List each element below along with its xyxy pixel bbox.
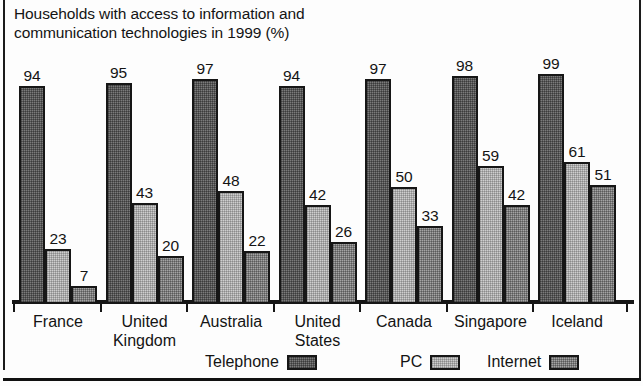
- bar-telephone[interactable]: 97: [365, 79, 391, 302]
- bar-telephone[interactable]: 94: [279, 86, 305, 302]
- bar-value-label: 97: [369, 60, 386, 78]
- bar-value-label: 22: [248, 232, 265, 250]
- legend-item-internet[interactable]: Internet: [487, 352, 579, 372]
- bar-group-bars: 944226: [279, 52, 357, 302]
- legend-swatch-internet: [549, 355, 579, 370]
- bar-value-label: 94: [283, 67, 300, 85]
- bar-internet[interactable]: 22: [244, 251, 270, 302]
- bar-value-label: 94: [23, 67, 40, 85]
- bar-value-label: 26: [335, 223, 352, 241]
- bar-group-bars: 954320: [106, 52, 184, 302]
- chart-legend: TelephonePCInternet: [0, 352, 643, 378]
- bar-group-bars: 975033: [365, 52, 443, 302]
- bar-pc[interactable]: 59: [478, 166, 504, 302]
- legend-label: Internet: [487, 352, 541, 372]
- x-axis-label-line: Iceland: [522, 312, 632, 331]
- bar-internet[interactable]: 26: [331, 242, 357, 302]
- bar-pc[interactable]: 48: [218, 191, 244, 302]
- x-axis-tick: [626, 302, 628, 312]
- bar-telephone[interactable]: 98: [452, 76, 478, 302]
- bar-value-label: 7: [80, 267, 89, 285]
- bar-value-label: 42: [508, 186, 525, 204]
- chart-title-line-2: communication technologies in 1999 (%): [14, 23, 444, 42]
- bar-group-bars: 996151: [538, 52, 616, 302]
- bar-internet[interactable]: 51: [590, 185, 616, 302]
- chart-figure: Households with access to information an…: [0, 0, 643, 386]
- bar-value-label: 98: [456, 57, 473, 75]
- bar-internet[interactable]: 20: [158, 256, 184, 302]
- chart-title-line-1: Households with access to information an…: [14, 4, 444, 23]
- bar-value-label: 61: [568, 143, 585, 161]
- legend-label: Telephone: [205, 352, 279, 372]
- x-axis-tick: [446, 302, 448, 312]
- x-axis-label: Iceland: [522, 312, 632, 331]
- bar-telephone[interactable]: 99: [538, 74, 564, 302]
- bar-group-bars: 985942: [452, 52, 530, 302]
- x-axis-label-line: Kingdom: [90, 331, 200, 350]
- x-axis-tick: [186, 302, 188, 312]
- bar-value-label: 51: [594, 166, 611, 184]
- bar-group-bars: 94237: [19, 52, 97, 302]
- legend-swatch-telephone: [287, 355, 317, 370]
- bar-value-label: 42: [309, 186, 326, 204]
- x-axis-tick: [273, 302, 275, 312]
- x-axis-tick: [359, 302, 361, 312]
- bar-telephone[interactable]: 94: [19, 86, 45, 302]
- bar-telephone[interactable]: 97: [192, 79, 218, 302]
- bar-value-label: 33: [421, 207, 438, 225]
- bar-value-label: 59: [482, 147, 499, 165]
- frame-right-border: [639, 0, 641, 378]
- legend-item-telephone[interactable]: Telephone: [205, 352, 317, 372]
- bar-pc[interactable]: 61: [564, 162, 590, 302]
- bar-value-label: 95: [110, 64, 127, 82]
- chart-title: Households with access to information an…: [14, 4, 444, 42]
- bar-telephone[interactable]: 95: [106, 83, 132, 302]
- bar-group-bars: 974822: [192, 52, 270, 302]
- legend-label: PC: [400, 352, 422, 372]
- x-axis-tick: [100, 302, 102, 312]
- bar-value-label: 23: [49, 230, 66, 248]
- bar-value-label: 43: [136, 184, 153, 202]
- x-axis-tick: [532, 302, 534, 312]
- legend-swatch-pc: [430, 355, 460, 370]
- bar-pc[interactable]: 42: [305, 205, 331, 302]
- bar-pc[interactable]: 50: [391, 187, 417, 302]
- x-axis-tick: [13, 302, 15, 312]
- bar-internet[interactable]: 33: [417, 226, 443, 302]
- bar-pc[interactable]: 43: [132, 203, 158, 302]
- bar-value-label: 20: [162, 237, 179, 255]
- bar-pc[interactable]: 23: [45, 249, 71, 302]
- frame-bottom-border: [3, 378, 641, 381]
- bar-internet[interactable]: 42: [504, 205, 530, 302]
- bar-value-label: 99: [542, 55, 559, 73]
- bar-value-label: 97: [196, 60, 213, 78]
- bar-value-label: 50: [395, 168, 412, 186]
- x-axis-label-line: States: [263, 331, 373, 350]
- bar-value-label: 48: [222, 172, 239, 190]
- legend-item-pc[interactable]: PC: [400, 352, 460, 372]
- bar-internet[interactable]: 7: [71, 286, 97, 302]
